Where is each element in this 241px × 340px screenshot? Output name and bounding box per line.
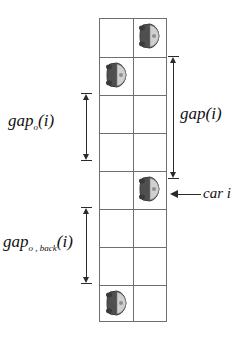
gap-o-back-measure-bar bbox=[81, 207, 92, 284]
gap-o-label-subscript: o bbox=[34, 122, 39, 132]
gap-o-back-label-subscript: o , back bbox=[29, 243, 57, 253]
row-line bbox=[100, 171, 166, 172]
row-line bbox=[100, 57, 166, 58]
car-i-callout-label: car i bbox=[203, 186, 231, 201]
measure-stem bbox=[86, 97, 87, 157]
gap-o-measure-bar bbox=[81, 93, 92, 161]
gap-o-label: gapo(i) bbox=[8, 112, 54, 129]
gap-measure-bar bbox=[168, 56, 179, 179]
car-icon bbox=[104, 60, 130, 90]
row-line bbox=[100, 133, 166, 134]
car-icon bbox=[104, 288, 130, 318]
measure-stem bbox=[86, 211, 87, 280]
traffic-gap-figure: gapo(i) gapo , back(i) gap(i) car i bbox=[0, 0, 241, 340]
gap-label-base: gap bbox=[180, 104, 206, 123]
row-line bbox=[100, 209, 166, 210]
arrow-shaft bbox=[176, 194, 201, 195]
gap-label-argument: (i) bbox=[206, 104, 222, 123]
gap-o-back-label-base: gap bbox=[3, 232, 29, 251]
gap-o-back-label: gapo , back(i) bbox=[3, 233, 73, 250]
measure-cap-bottom bbox=[81, 283, 92, 284]
car-icon bbox=[137, 21, 163, 51]
gap-o-back-label-argument: (i) bbox=[57, 232, 73, 251]
car-i-callout-arrow bbox=[170, 190, 201, 199]
measure-arrow-up bbox=[83, 208, 89, 214]
measure-cap-bottom bbox=[168, 178, 179, 179]
measure-arrow-up bbox=[170, 57, 176, 63]
lane-divider bbox=[133, 19, 134, 321]
gap-o-label-base: gap bbox=[8, 111, 34, 130]
measure-stem bbox=[173, 60, 174, 175]
gap-o-label-argument: (i) bbox=[38, 111, 54, 130]
row-line bbox=[100, 95, 166, 96]
gap-label: gap(i) bbox=[180, 105, 222, 122]
row-line bbox=[100, 285, 166, 286]
car-icon-car-i bbox=[137, 174, 163, 204]
measure-cap-bottom bbox=[81, 160, 92, 161]
row-line bbox=[100, 247, 166, 248]
measure-arrow-up bbox=[83, 94, 89, 100]
